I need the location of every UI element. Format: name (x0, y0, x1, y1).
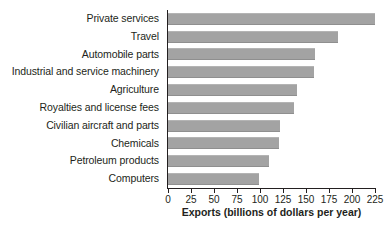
bar (168, 13, 375, 25)
bar-row (168, 46, 375, 64)
x-axis-tick-label: 25 (185, 193, 196, 206)
category-label: Civilian aircraft and parts (0, 117, 164, 135)
x-axis-tick-label: 50 (208, 193, 219, 206)
bar (168, 31, 338, 43)
bar-row (168, 170, 375, 188)
bar-row (168, 28, 375, 46)
bar-row (168, 10, 375, 28)
x-axis-tick-label: 0 (165, 193, 171, 206)
category-axis-labels: Private servicesTravelAutomobile partsIn… (0, 10, 164, 188)
bar (168, 155, 269, 167)
bar (168, 173, 259, 185)
x-axis-line (167, 188, 375, 189)
x-axis-tick-label: 125 (275, 193, 292, 206)
category-label: Computers (0, 170, 164, 188)
bar-row (168, 81, 375, 99)
x-axis-tick-label: 175 (321, 193, 338, 206)
x-axis-tick-label: 200 (344, 193, 361, 206)
x-axis (168, 188, 375, 190)
bar (168, 66, 314, 78)
bar (168, 137, 279, 149)
category-label: Royalties and license fees (0, 99, 164, 117)
bar-row (168, 152, 375, 170)
x-axis-tick-label: 225 (367, 193, 384, 206)
plot-area (168, 10, 375, 188)
bar (168, 48, 315, 60)
bar-series (168, 10, 375, 188)
category-label: Automobile parts (0, 46, 164, 64)
horizontal-bar-chart: Private servicesTravelAutomobile partsIn… (0, 0, 385, 233)
bar-row (168, 135, 375, 153)
bar-row (168, 117, 375, 135)
x-axis-tick-label: 100 (252, 193, 269, 206)
bar (168, 102, 294, 114)
category-label: Private services (0, 10, 164, 28)
category-label: Petroleum products (0, 152, 164, 170)
bar-row (168, 99, 375, 117)
category-label: Agriculture (0, 81, 164, 99)
category-label: Chemicals (0, 135, 164, 153)
x-axis-title: Exports (billions of dollars per year) (168, 206, 375, 218)
x-axis-tick-labels: 0255075100125150175200225 (168, 193, 375, 206)
x-axis-tick-label: 75 (231, 193, 242, 206)
x-axis-tick-label: 150 (298, 193, 315, 206)
bar-row (168, 63, 375, 81)
bar (168, 84, 297, 96)
bar (168, 120, 280, 132)
category-label: Travel (0, 28, 164, 46)
category-label: Industrial and service machinery (0, 63, 164, 81)
